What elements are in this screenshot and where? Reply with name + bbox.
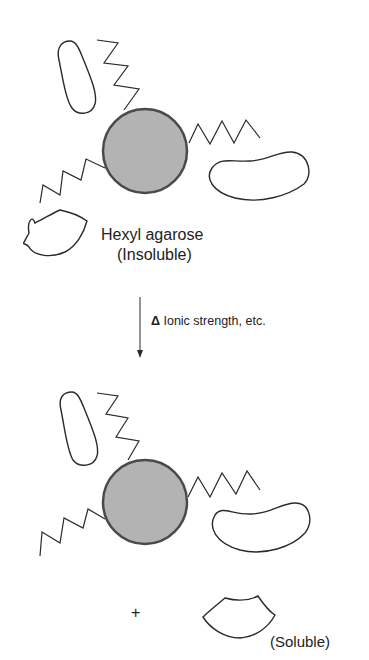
transition-text: Ionic strength, etc. [163,314,265,328]
protein-kidney-2 [212,503,309,552]
protein-teardrop [58,41,95,113]
hexyl-chain-left-2 [40,509,105,556]
hexyl-chain-left [40,159,105,203]
plus-sign: + [131,604,140,622]
protein-kidney [209,152,309,200]
bottom-bead-group [40,392,310,638]
agarose-bead [103,109,187,193]
diagram-canvas [0,0,369,660]
delta-symbol: Δ [151,314,160,328]
bead-label: Hexyl agarose [101,226,203,244]
hexyl-chain-right [189,120,260,144]
transition-arrow [137,297,143,358]
top-bead-group [24,40,309,256]
protein-released [203,596,275,638]
protein-wedge [24,210,87,256]
hexyl-chain-right-2 [188,471,260,497]
hexyl-chain-top-2 [97,393,139,460]
hexyl-chain-top [97,40,139,110]
transition-label: Δ Ionic strength, etc. [151,314,266,328]
protein-teardrop-2 [60,392,98,465]
insoluble-label: (Insoluble) [117,246,192,264]
agarose-bead-2 [103,460,187,544]
soluble-label: (Soluble) [270,633,330,650]
